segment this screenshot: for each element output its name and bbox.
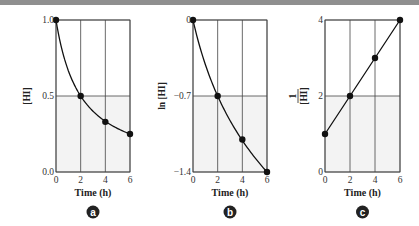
x-tick-label: 4 xyxy=(240,175,245,185)
chart-canvas: 0.00.51.00246Time (h)[HI]a −1.4−0.700246… xyxy=(0,0,419,226)
y-tick-label: −1.4 xyxy=(174,167,191,177)
x-tick-label: 4 xyxy=(103,175,108,185)
data-point xyxy=(372,55,378,61)
x-tick-label: 4 xyxy=(373,175,378,185)
plot-bg-lower xyxy=(193,96,267,172)
data-point xyxy=(347,93,353,99)
data-point xyxy=(239,136,245,142)
data-point xyxy=(214,93,220,99)
data-point xyxy=(397,17,403,23)
x-tick-label: 6 xyxy=(265,175,270,185)
y-tick-label: 2 xyxy=(318,91,323,101)
x-axis-label: Time (h) xyxy=(344,187,381,199)
x-tick-label: 6 xyxy=(128,175,133,185)
y-tick-label: 0.5 xyxy=(42,91,54,101)
y-tick-label: −0.7 xyxy=(174,91,191,101)
y-tick-label: 1.0 xyxy=(42,15,54,25)
y-axis-label-numerator: 1 xyxy=(288,93,298,98)
x-tick-label: 2 xyxy=(348,175,353,185)
y-tick-label: 0.0 xyxy=(42,167,54,177)
y-axis-label: 1[HI] xyxy=(288,87,309,104)
x-tick-label: 0 xyxy=(191,175,196,185)
y-tick-label: 0 xyxy=(186,15,191,25)
y-axis-label: ln [HI] xyxy=(157,82,167,110)
panel-a: 0.00.51.00246Time (h)[HI]a xyxy=(22,15,133,218)
data-point xyxy=(322,131,328,137)
plot-bg-lower xyxy=(325,96,400,172)
x-axis-label: Time (h) xyxy=(75,187,112,199)
x-tick-label: 2 xyxy=(215,175,220,185)
data-point xyxy=(102,119,108,125)
y-tick-label: 4 xyxy=(318,15,323,25)
plot-bg-upper xyxy=(193,20,267,96)
panel-b: −1.4−0.700246Time (h)ln [HI]b xyxy=(157,15,270,218)
panel-badge-label: b xyxy=(227,207,233,218)
data-point xyxy=(127,131,133,137)
plot-bg-upper xyxy=(56,20,130,96)
x-axis-label: Time (h) xyxy=(212,187,249,199)
plot-bg-lower xyxy=(56,96,130,172)
x-tick-label: 0 xyxy=(323,175,328,185)
x-tick-label: 2 xyxy=(78,175,83,185)
panel-badge-label: c xyxy=(360,207,366,218)
y-axis-label-denominator: [HI] xyxy=(299,87,309,104)
x-tick-label: 6 xyxy=(398,175,403,185)
panel-c: 0240246Time (h)1[HI]c xyxy=(288,15,403,218)
plot-bg-upper xyxy=(325,20,400,96)
y-axis-label: [HI] xyxy=(22,87,32,104)
data-point xyxy=(77,93,83,99)
x-tick-label: 0 xyxy=(54,175,59,185)
panel-badge-label: a xyxy=(90,207,96,218)
